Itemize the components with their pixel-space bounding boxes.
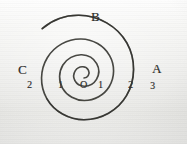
label-point-a: A — [152, 62, 161, 75]
spiral-outer-emphasis — [42, 15, 133, 119]
axis-tick-label-pos1: 1 — [98, 80, 103, 90]
axis-tick-label-origin: O — [80, 80, 87, 90]
axis-tick-label-pos3: 3 — [150, 81, 155, 91]
axis-tick-label-neg1: 1 — [58, 80, 63, 90]
figure-root: B C A 2 1 O 1 2 3 — [0, 0, 187, 144]
spiral-outer-stroke — [42, 15, 133, 119]
label-point-b: B — [91, 10, 100, 23]
axis-tick-label-pos2: 2 — [128, 80, 133, 90]
axis-tick-label-neg2: 2 — [27, 80, 32, 90]
label-point-c: C — [18, 63, 27, 76]
